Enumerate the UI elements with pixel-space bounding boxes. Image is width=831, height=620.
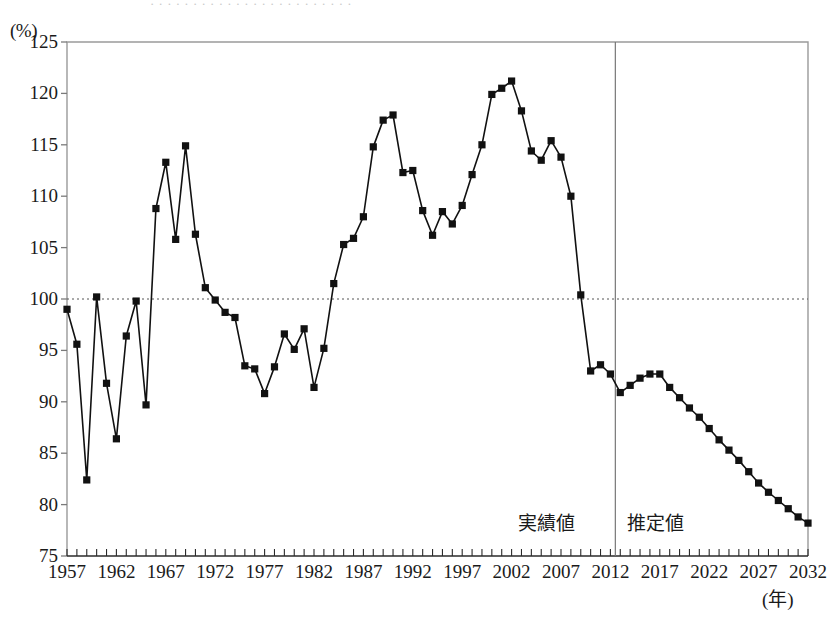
x-tick-label: 1997	[436, 562, 488, 581]
y-tick-label: 110	[12, 186, 58, 205]
x-tick-label: 2002	[486, 562, 538, 581]
x-tick-label: 2027	[733, 562, 785, 581]
x-tick-label: 1972	[189, 562, 241, 581]
y-tick-label: 125	[12, 32, 58, 51]
x-tick-label: 2007	[535, 562, 587, 581]
y-tick-label: 105	[12, 238, 58, 257]
x-tick-label: 1987	[337, 562, 389, 581]
x-tick-label: 2022	[683, 562, 735, 581]
y-tick-label: 80	[12, 495, 58, 514]
x-tick-label: 1982	[288, 562, 340, 581]
y-tick-label: 115	[12, 135, 58, 154]
x-tick-label: 1977	[239, 562, 291, 581]
y-tick-label: 85	[12, 443, 58, 462]
x-tick-label: 1962	[90, 562, 142, 581]
y-tick-label: 95	[12, 340, 58, 359]
x-tick-label: 1967	[140, 562, 192, 581]
x-tick-label: 2017	[634, 562, 686, 581]
y-tick-label: 120	[12, 83, 58, 102]
x-tick-label: 1957	[41, 562, 93, 581]
annotation-estimate: 推定値	[627, 508, 684, 535]
x-tick-label: 2032	[782, 562, 831, 581]
x-tick-label: 2012	[584, 562, 636, 581]
annotation-actual: 実績値	[518, 508, 575, 535]
y-tick-label: 100	[12, 289, 58, 308]
x-tick-label: 1992	[387, 562, 439, 581]
y-tick-label: 90	[12, 392, 58, 411]
